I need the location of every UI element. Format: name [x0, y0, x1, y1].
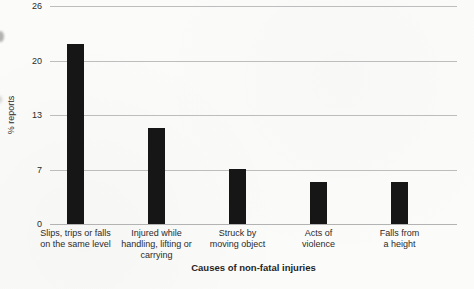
- category-label: Falls froma height: [354, 228, 446, 250]
- gridline: [50, 6, 457, 7]
- y-tick-label: 26: [12, 1, 42, 11]
- bar: [391, 182, 408, 224]
- gridline: [50, 61, 457, 62]
- bar: [310, 182, 327, 224]
- y-tick-label: 7: [12, 165, 42, 175]
- gridline: [50, 170, 457, 171]
- plot-area: 07132026Slips, trips or fallson the same…: [0, 0, 474, 289]
- bar: [229, 169, 246, 224]
- bar: [148, 128, 165, 224]
- gridline: [50, 224, 457, 225]
- x-axis-title: Causes of non-fatal injuries: [50, 262, 457, 273]
- category-label: Slips, trips or fallson the same level: [30, 228, 122, 250]
- category-label: Injured whilehandling, lifting orcarryin…: [111, 228, 203, 261]
- y-axis-title-text: % reports: [6, 96, 16, 135]
- category-label: Acts ofviolence: [273, 228, 365, 250]
- bar: [67, 44, 84, 224]
- scanned-bar-chart: 07132026Slips, trips or fallson the same…: [0, 0, 474, 289]
- gridline: [50, 115, 457, 116]
- y-tick-label: 20: [12, 56, 42, 66]
- y-tick-label: 13: [12, 110, 42, 120]
- category-label: Struck bymoving object: [192, 228, 284, 250]
